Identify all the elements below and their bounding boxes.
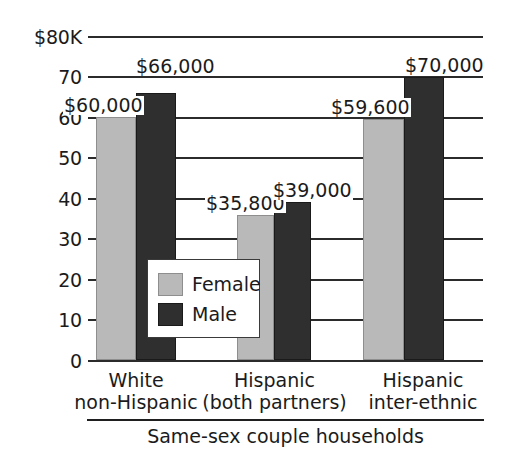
x-axis-caption: Same-sex couple households [87,424,484,448]
bar-female-white-non-hispanic[interactable] [96,117,136,360]
bar-value-label-male-hispanic-inter-ethnic: $70,000 [404,56,485,75]
x-category-label-hispanic-both-partners: Hispanic (both partners) [197,369,352,413]
legend-label-female: Female [192,275,261,294]
y-tick-label-50: 50 [0,149,82,168]
x-axis-rule [87,419,484,421]
bar-value-label-male-hispanic-both-partners: $39,000 [272,181,353,200]
y-tick-label-30: 30 [0,230,82,249]
gridline-0-baseline [88,360,483,362]
x-category-label-hispanic-inter-ethnic: Hispanic inter-ethnic [349,369,497,413]
legend-item-female[interactable]: Female [158,269,259,299]
legend-swatch-female-icon [158,273,183,296]
bar-male-hispanic-both-partners[interactable] [274,202,311,360]
plot-area: $80K 70 60 50 40 30 20 10 0 $60,000 $66,… [0,0,507,453]
legend: Female Male [147,259,260,338]
x-category-label-line1: White [108,369,163,391]
legend-item-male[interactable]: Male [158,299,259,329]
y-tick-label-20: 20 [0,271,82,290]
y-tick-label-40: 40 [0,190,82,209]
bar-female-hispanic-inter-ethnic[interactable] [363,119,404,360]
x-category-label-line2: non-Hispanic [66,391,206,413]
x-category-label-white-non-hispanic: White non-Hispanic [66,369,206,413]
legend-swatch-male-icon [158,303,183,326]
bar-value-label-female-hispanic-inter-ethnic: $59,600 [330,98,411,117]
x-category-label-line2: inter-ethnic [349,391,497,413]
bar-male-hispanic-inter-ethnic[interactable] [404,77,444,360]
bar-chart: $80K 70 60 50 40 30 20 10 0 $60,000 $66,… [0,0,507,453]
y-tick-label-10: 10 [0,311,82,330]
bar-value-label-male-white-non-hispanic: $66,000 [135,57,216,76]
y-tick-label-70: 70 [0,68,82,87]
bar-value-label-female-white-non-hispanic: $60,000 [63,96,144,115]
x-category-label-line1: Hispanic [383,369,464,391]
gridline-80 [88,36,483,38]
x-category-label-line1: Hispanic [234,369,315,391]
legend-label-male: Male [192,305,237,324]
y-tick-label-80k: $80K [0,28,82,47]
x-category-label-line2: (both partners) [197,391,352,413]
